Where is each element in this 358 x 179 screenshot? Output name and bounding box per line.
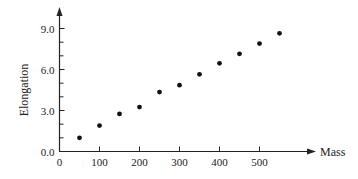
x-tick-label: 500 — [251, 156, 268, 168]
data-point — [277, 31, 282, 36]
data-point — [237, 51, 242, 56]
y-tick-label: 6.0 — [41, 64, 55, 76]
data-point — [97, 123, 102, 128]
data-point — [177, 83, 182, 88]
x-tick-label: 400 — [211, 156, 228, 168]
data-point — [77, 135, 82, 140]
data-points — [77, 31, 282, 140]
x-axis-arrow-icon — [307, 149, 316, 155]
y-tick-label: 3.0 — [41, 105, 55, 117]
data-point — [117, 112, 122, 117]
x-tick-label: 300 — [171, 156, 188, 168]
y-axis-ticks: 0.03.06.09.0 — [41, 23, 65, 158]
data-point — [137, 105, 142, 110]
data-point — [217, 61, 222, 66]
y-axis-arrow-icon — [57, 7, 63, 16]
scatter-chart: 0100200300400500 0.03.06.09.0 Mass Elong… — [0, 0, 358, 179]
y-axis-label: Elongation — [17, 64, 31, 117]
data-point — [197, 72, 202, 77]
x-tick-label: 100 — [91, 156, 108, 168]
y-tick-label: 0.0 — [41, 146, 55, 158]
data-point — [257, 41, 262, 46]
x-axis-ticks: 0100200300400500 — [57, 147, 269, 168]
x-tick-label: 0 — [57, 156, 63, 168]
data-point — [157, 90, 162, 95]
x-tick-label: 200 — [131, 156, 148, 168]
y-tick-label: 9.0 — [41, 23, 55, 35]
x-axis-label: Mass — [320, 145, 346, 159]
